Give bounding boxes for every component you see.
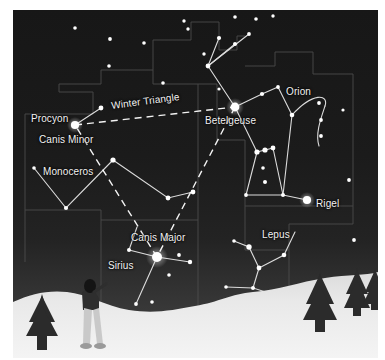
label-rigel: Rigel bbox=[316, 198, 339, 209]
sky-plate: Procyon Canis Minor Monoceros Winter Tri… bbox=[13, 10, 378, 358]
label-sirius: Sirius bbox=[108, 260, 134, 271]
star-procyon bbox=[71, 121, 79, 129]
label-canis-major: Canis Major bbox=[131, 232, 185, 243]
sky-canvas bbox=[13, 10, 378, 358]
star-field bbox=[32, 14, 356, 306]
star-chart-figure: Procyon Canis Minor Monoceros Winter Tri… bbox=[0, 0, 385, 360]
label-procyon: Procyon bbox=[31, 113, 68, 124]
label-monoceros: Monoceros bbox=[43, 166, 93, 177]
label-orion: Orion bbox=[286, 86, 311, 97]
star-sirius bbox=[152, 252, 162, 262]
label-betelgeuse: Betelgeuse bbox=[205, 115, 256, 126]
star-betelgeuse bbox=[231, 103, 240, 112]
label-canis-minor: Canis Minor bbox=[39, 134, 93, 145]
star-rigel bbox=[303, 196, 311, 204]
label-lepus: Lepus bbox=[262, 229, 290, 240]
